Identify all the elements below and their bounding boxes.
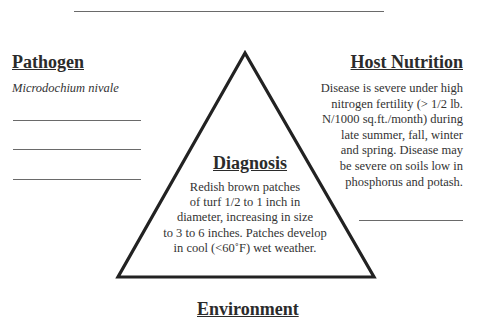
host-nutrition-heading: Host Nutrition xyxy=(351,52,464,73)
pathogen-blank-line-3 xyxy=(13,179,141,180)
pathogen-blank-line-1 xyxy=(13,120,141,121)
pathogen-blank-line-2 xyxy=(13,149,141,150)
pathogen-name: Microdochium nivale xyxy=(12,81,119,96)
diagnosis-heading: Diagnosis xyxy=(213,153,287,174)
host-nutrition-text: Disease is severe under high nitrogen fe… xyxy=(263,81,463,190)
diagnosis-text: Redish brown patches of turf 1/2 to 1 in… xyxy=(145,180,345,256)
pathogen-heading: Pathogen xyxy=(12,52,84,73)
environment-heading: Environment xyxy=(197,299,299,320)
host-nutrition-blank-line xyxy=(359,220,463,221)
